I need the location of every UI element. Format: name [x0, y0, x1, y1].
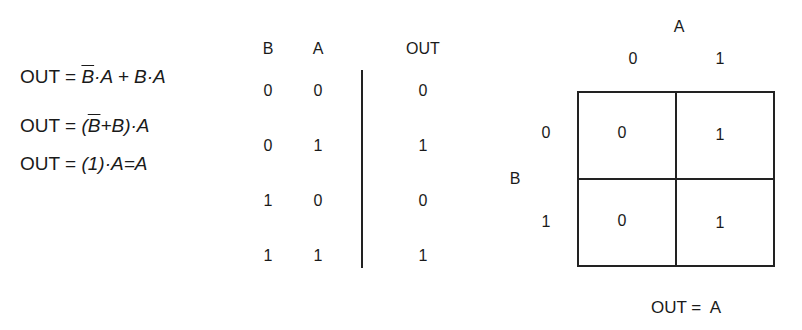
cell-a: 1 — [308, 247, 328, 265]
equation-3: OUT = (1)·A=A — [20, 153, 147, 175]
cell-out: 0 — [413, 82, 433, 100]
equation-lhs: OUT = — [20, 115, 81, 136]
b-bar: B — [81, 66, 94, 87]
cell-a: 0 — [308, 82, 328, 100]
kmap-col-label: 1 — [710, 50, 730, 68]
header-a: A — [308, 40, 328, 58]
term: (1)·A=A — [81, 153, 147, 174]
cell-out: 1 — [413, 247, 433, 265]
kmap-cell: 1 — [710, 126, 730, 144]
equation-lhs: OUT = — [20, 66, 81, 87]
equation-2: OUT = (B+B)·A — [20, 115, 150, 137]
term: ·A + — [94, 66, 134, 87]
cell-b: 1 — [258, 247, 278, 265]
kmap-col-var: A — [669, 18, 689, 36]
b-bar: B — [88, 115, 101, 136]
kmap-cell: 1 — [710, 214, 730, 232]
cell-b: 0 — [258, 82, 278, 100]
kmap-row-var: B — [505, 170, 525, 188]
kmap-cell: 0 — [612, 212, 632, 230]
cell-b: 1 — [258, 192, 278, 210]
equation-lhs: OUT = — [20, 153, 81, 174]
cell-out: 1 — [413, 137, 433, 155]
cell-out: 0 — [413, 192, 433, 210]
cell-a: 1 — [308, 137, 328, 155]
term: B·A — [134, 66, 166, 87]
kmap-col-label: 0 — [623, 50, 643, 68]
kmap-result: OUT = A — [651, 298, 721, 318]
kmap-row-label: 0 — [536, 124, 556, 142]
cell-b: 0 — [258, 137, 278, 155]
term: +B)·A — [100, 115, 149, 136]
kmap-row-label: 1 — [536, 213, 556, 231]
header-b: B — [258, 40, 278, 58]
header-out: OUT — [403, 40, 443, 58]
kmap-horizontal-divider — [577, 178, 775, 180]
kmap-cell: 0 — [612, 124, 632, 142]
cell-a: 0 — [308, 192, 328, 210]
table-divider — [361, 70, 363, 268]
equation-1: OUT = B·A + B·A — [20, 66, 166, 88]
